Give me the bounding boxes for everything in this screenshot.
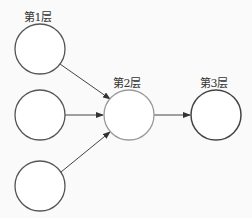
edge-l1n3-to-l2 [61, 132, 110, 172]
node-layer3 [191, 90, 241, 140]
node-layer1-1 [15, 24, 65, 74]
node-layer2 [104, 90, 154, 140]
layer1-label: 第1层 [24, 8, 53, 24]
edge-l1n1-to-l2 [60, 64, 110, 99]
node-layer1-2 [15, 90, 65, 140]
node-layer1-3 [15, 161, 65, 211]
network-diagram [0, 0, 252, 218]
layer3-label: 第3层 [200, 74, 229, 90]
layer2-label: 第2层 [113, 74, 142, 90]
